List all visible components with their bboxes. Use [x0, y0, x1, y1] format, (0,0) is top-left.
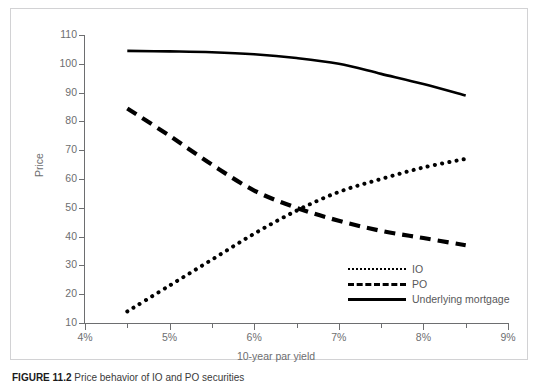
- figure-frame: Price 10-year par yield 1020304050607080…: [10, 8, 528, 360]
- y-tick-label: 50: [45, 202, 77, 212]
- x-tick-label: 5%: [150, 332, 190, 343]
- x-tick-minor: [466, 324, 467, 328]
- figure-number: FIGURE 11.2: [12, 372, 71, 383]
- x-tick-label: 6%: [234, 332, 274, 343]
- x-tick-label: 4%: [65, 332, 105, 343]
- dotted-line-icon: [348, 263, 406, 275]
- series-line-po: [127, 108, 465, 245]
- legend-item-io[interactable]: IO: [348, 261, 523, 276]
- x-tick: [423, 324, 424, 330]
- dashed-line-icon: [348, 278, 406, 290]
- chart-legend: IOPOUnderlying mortgage: [348, 261, 523, 306]
- x-axis-title: 10-year par yield: [186, 350, 366, 362]
- y-tick-label: 110: [45, 29, 77, 39]
- y-tick-label: 40: [45, 231, 77, 241]
- x-tick-label: 7%: [319, 332, 359, 343]
- legend-label: IO: [412, 263, 423, 275]
- legend-label: PO: [412, 278, 427, 290]
- figure-caption-text: Price behavior of IO and PO securities: [74, 372, 244, 383]
- x-tick: [508, 324, 509, 330]
- y-tick-label: 70: [45, 144, 77, 154]
- figure-caption: FIGURE 11.2 Price behavior of IO and PO …: [12, 372, 532, 384]
- figure-page: Price 10-year par yield 1020304050607080…: [0, 0, 544, 385]
- y-tick-label: 60: [45, 173, 77, 183]
- x-tick-label: 9%: [488, 332, 528, 343]
- series-line-underlying-mortgage: [127, 51, 465, 96]
- x-tick-minor: [212, 324, 213, 328]
- x-tick: [170, 324, 171, 330]
- y-tick-label: 100: [45, 58, 77, 68]
- legend-item-po[interactable]: PO: [348, 276, 523, 291]
- y-tick-label: 80: [45, 115, 77, 125]
- legend-item-underlying-mortgage[interactable]: Underlying mortgage: [348, 291, 523, 306]
- y-tick-label: 30: [45, 259, 77, 269]
- x-tick-minor: [381, 324, 382, 328]
- x-tick-minor: [297, 324, 298, 328]
- y-tick-label: 10: [45, 317, 77, 327]
- x-tick: [85, 324, 86, 330]
- solid-line-icon: [348, 293, 406, 305]
- legend-label: Underlying mortgage: [412, 293, 509, 305]
- x-tick-label: 8%: [403, 332, 443, 343]
- x-tick-minor: [127, 324, 128, 328]
- x-tick: [339, 324, 340, 330]
- y-tick-label: 90: [45, 87, 77, 97]
- y-tick-label: 20: [45, 288, 77, 298]
- y-axis-title: Price: [33, 135, 45, 195]
- x-tick: [254, 324, 255, 330]
